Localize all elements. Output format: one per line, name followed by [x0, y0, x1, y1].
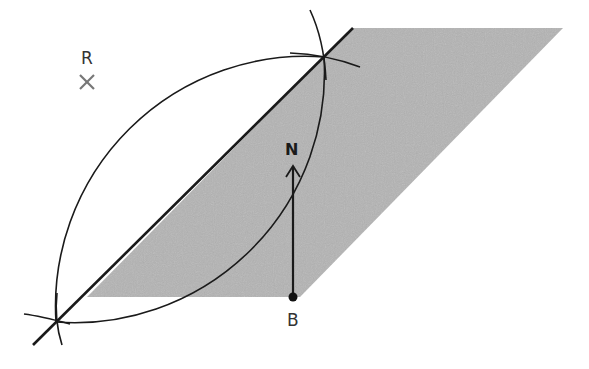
- label-north: N: [285, 140, 298, 159]
- point-b-dot: [289, 293, 298, 302]
- label-b: B: [287, 310, 299, 330]
- construction-diagram: R B N: [0, 0, 589, 369]
- point-r-cross-icon: [80, 75, 94, 89]
- label-r: R: [81, 48, 93, 68]
